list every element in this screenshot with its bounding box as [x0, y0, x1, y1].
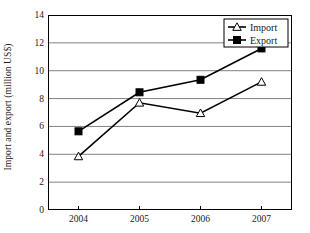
- legend-label-import: Import: [250, 22, 277, 33]
- y-axis-tick-label: 6: [22, 121, 44, 131]
- y-axis-tick-labels: 02468101214: [20, 15, 44, 210]
- y-axis-title: Import and export (million US$): [0, 0, 16, 213]
- x-axis-tick-label: 2005: [130, 214, 149, 224]
- y-axis-title-text: Import and export (million US$): [3, 43, 13, 170]
- x-axis-tick-labels: 2004200520062007: [48, 212, 292, 230]
- y-axis-tick-label: 2: [22, 177, 44, 187]
- chart-legend: ImportExport: [224, 19, 288, 47]
- y-axis-tick-label: 14: [22, 10, 44, 20]
- series-line-export: [79, 48, 262, 131]
- chart-figure: Import and export (million US$) 02468101…: [0, 0, 310, 233]
- x-axis-tick-label: 2007: [252, 214, 271, 224]
- y-axis-tick-label: 12: [22, 38, 44, 48]
- data-point-marker-triangle: [135, 99, 143, 107]
- y-axis-tick-label: 4: [22, 149, 44, 159]
- y-axis-tick-label: 0: [22, 205, 44, 215]
- data-point-marker-triangle: [257, 78, 265, 86]
- x-axis-tick-label: 2004: [69, 214, 88, 224]
- data-point-marker-square: [234, 37, 241, 44]
- x-axis-tick-label: 2006: [191, 214, 210, 224]
- y-axis-tick-label: 8: [22, 94, 44, 104]
- legend-label-export: Export: [250, 35, 277, 46]
- series-line-import: [79, 82, 262, 157]
- y-axis-tick-label: 10: [22, 66, 44, 76]
- data-point-marker-square: [75, 128, 82, 135]
- data-point-marker-square: [136, 89, 143, 96]
- series-lines: [74, 45, 265, 160]
- plot-svg: ImportExport: [48, 15, 292, 210]
- data-point-marker-square: [197, 76, 204, 83]
- plot-area: ImportExport: [48, 15, 292, 210]
